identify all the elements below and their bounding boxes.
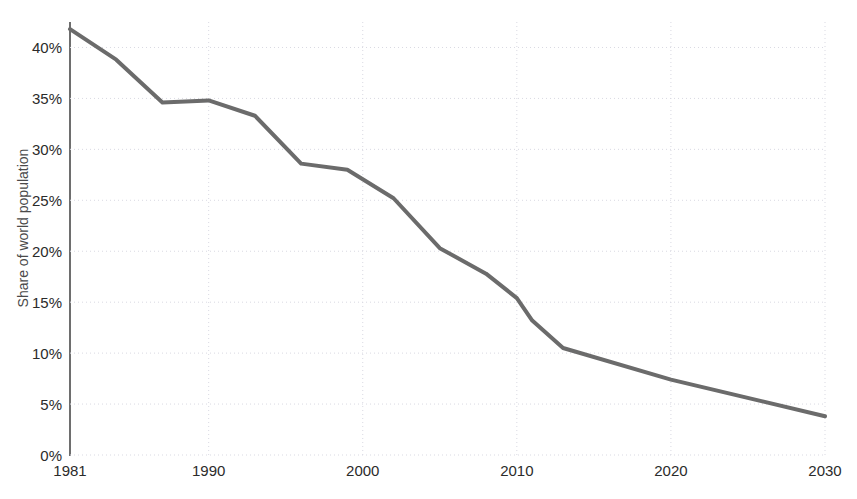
x-tick-label: 1990 (192, 462, 225, 479)
x-tick-label: 2030 (808, 462, 841, 479)
data-series-line (70, 29, 825, 416)
y-axis-title: Share of world population (12, 0, 34, 455)
x-tick-label: 1981 (53, 462, 86, 479)
data-line-layer (70, 22, 825, 455)
x-tick-label: 2000 (346, 462, 379, 479)
chart-figure: Share of world population 0%5%10%15%20%2… (0, 0, 857, 499)
x-tick-label: 2020 (654, 462, 687, 479)
y-axis-title-label: Share of world population (15, 148, 31, 307)
x-tick-label: 2010 (500, 462, 533, 479)
plot-area (70, 22, 825, 455)
